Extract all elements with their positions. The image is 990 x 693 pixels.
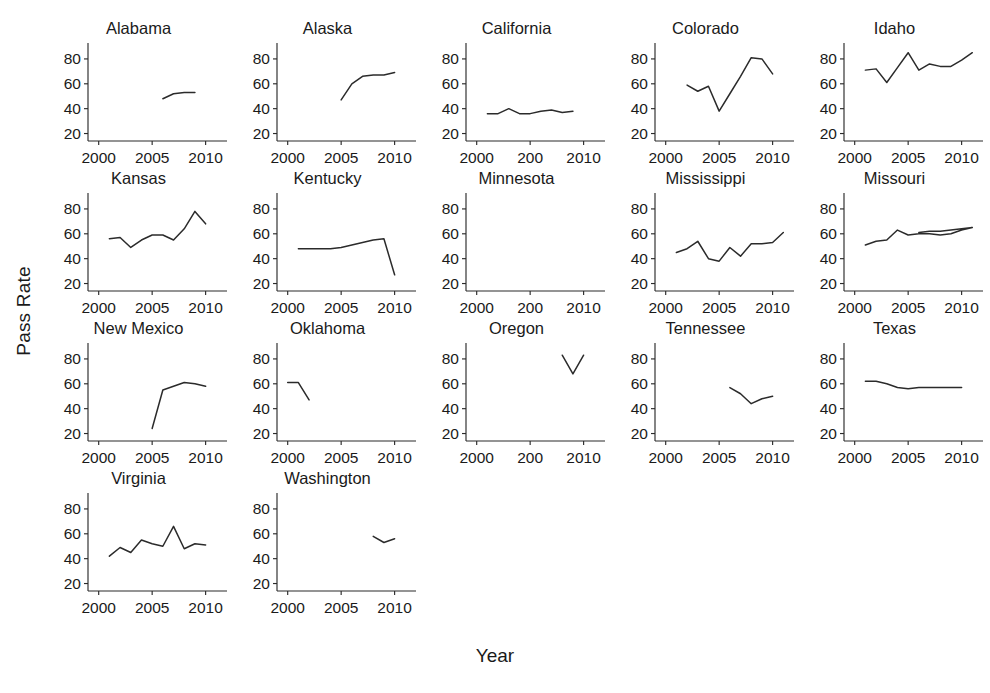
y-tick-label: 40 (631, 250, 649, 267)
x-tick-label: 2010 (566, 149, 601, 166)
data-line (730, 388, 773, 404)
x-tick-label: 2010 (377, 149, 412, 166)
data-line (676, 233, 783, 262)
data-line (865, 228, 972, 245)
x-tick-label: 200 (517, 449, 543, 466)
y-tick-label: 40 (253, 550, 271, 567)
y-tick-label: 80 (820, 50, 838, 67)
x-tick-label: 2005 (135, 149, 169, 166)
x-tick-label: 2000 (270, 449, 305, 466)
y-tick-label: 20 (64, 125, 82, 142)
x-tick-label: 2005 (135, 449, 169, 466)
x-tick-label: 2010 (188, 449, 223, 466)
data-line (562, 355, 583, 374)
y-tick-label: 40 (253, 250, 271, 267)
y-tick-label: 40 (253, 100, 271, 117)
y-tick-label: 40 (64, 250, 82, 267)
x-tick-label: 2010 (944, 149, 979, 166)
y-tick-label: 80 (64, 200, 82, 217)
plot-area: 20406080200020052010 (44, 338, 233, 473)
y-tick-label: 60 (253, 225, 271, 242)
y-tick-label: 60 (442, 75, 460, 92)
panel-oregon: Oregon2040608020002002010 (422, 318, 611, 473)
y-tick-label: 80 (64, 500, 82, 517)
plot-area: 20406080200020052010 (233, 188, 422, 323)
panel-kentucky: Kentucky20406080200020052010 (233, 168, 422, 323)
panel-title: New Mexico (44, 318, 233, 338)
x-tick-label: 2010 (755, 149, 790, 166)
y-tick-label: 60 (64, 375, 82, 392)
panel-alaska: Alaska20406080200020052010 (233, 18, 422, 173)
panel-title: California (422, 18, 611, 38)
y-tick-label: 80 (253, 350, 271, 367)
x-tick-label: 2010 (755, 449, 790, 466)
y-tick-label: 40 (820, 400, 838, 417)
y-tick-label: 80 (442, 50, 460, 67)
x-tick-label: 2000 (837, 299, 872, 316)
y-tick-label: 20 (631, 425, 649, 442)
panel-idaho: Idaho20406080200020052010 (800, 18, 989, 173)
x-axis-label: Year (0, 645, 990, 667)
y-tick-label: 20 (64, 425, 82, 442)
y-tick-label: 20 (631, 125, 649, 142)
panel-mississippi: Mississippi20406080200020052010 (611, 168, 800, 323)
y-tick-label: 40 (253, 400, 271, 417)
plot-area: 2040608020002002010 (422, 338, 611, 473)
x-tick-label: 2005 (135, 599, 169, 616)
panel-minnesota: Minnesota2040608020002002010 (422, 168, 611, 323)
y-tick-label: 20 (820, 275, 838, 292)
y-tick-label: 20 (442, 425, 460, 442)
x-tick-label: 2000 (81, 599, 116, 616)
y-tick-label: 20 (253, 425, 271, 442)
data-line (865, 53, 972, 83)
y-tick-label: 20 (820, 125, 838, 142)
y-tick-label: 80 (253, 200, 271, 217)
data-line (298, 239, 394, 275)
data-line (288, 383, 309, 400)
panel-title: Alabama (44, 18, 233, 38)
x-tick-label: 2000 (459, 299, 494, 316)
panel-title: Washington (233, 468, 422, 488)
y-tick-label: 80 (64, 50, 82, 67)
y-tick-label: 20 (253, 275, 271, 292)
panel-california: California2040608020002002010 (422, 18, 611, 173)
y-tick-label: 80 (253, 500, 271, 517)
panel-virginia: Virginia20406080200020052010 (44, 468, 233, 623)
panel-title: Alaska (233, 18, 422, 38)
x-tick-label: 2000 (81, 299, 116, 316)
x-tick-label: 2010 (566, 299, 601, 316)
x-tick-label: 2000 (270, 299, 305, 316)
y-tick-label: 80 (442, 200, 460, 217)
data-line (109, 211, 205, 247)
plot-area: 20406080200020052010 (800, 338, 989, 473)
panel-texas: Texas20406080200020052010 (800, 318, 989, 473)
x-tick-label: 2005 (891, 449, 925, 466)
y-tick-label: 60 (631, 375, 649, 392)
panel-title: Virginia (44, 468, 233, 488)
x-tick-label: 2010 (188, 299, 223, 316)
x-tick-label: 2000 (459, 449, 494, 466)
x-tick-label: 2010 (566, 449, 601, 466)
x-tick-label: 200 (517, 149, 543, 166)
y-tick-label: 60 (820, 225, 838, 242)
panel-title: Missouri (800, 168, 989, 188)
panel-washington: Washington20406080200020052010 (233, 468, 422, 623)
panel-title: Colorado (611, 18, 800, 38)
y-tick-label: 20 (64, 575, 82, 592)
x-tick-label: 2005 (135, 299, 169, 316)
plot-area: 20406080200020052010 (611, 188, 800, 323)
x-tick-label: 2005 (702, 449, 736, 466)
plot-area: 20406080200020052010 (611, 38, 800, 173)
x-tick-label: 2010 (755, 299, 790, 316)
panel-tennessee: Tennessee20406080200020052010 (611, 318, 800, 473)
x-tick-label: 2010 (944, 299, 979, 316)
x-tick-label: 2000 (648, 449, 683, 466)
y-tick-label: 80 (631, 200, 649, 217)
y-tick-label: 40 (442, 250, 460, 267)
y-tick-label: 40 (442, 100, 460, 117)
x-tick-label: 2000 (81, 449, 116, 466)
panel-grid: Alabama20406080200020052010Alaska2040608… (44, 18, 990, 638)
y-axis-label-container: Pass Rate (4, 0, 44, 693)
plot-area: 20406080200020052010 (44, 188, 233, 323)
y-tick-label: 80 (442, 350, 460, 367)
